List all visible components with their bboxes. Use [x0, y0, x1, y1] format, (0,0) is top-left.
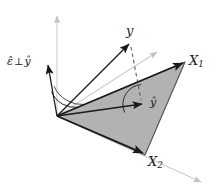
label-x2-base: X	[148, 154, 157, 169]
label-epsilon-perp-yhat: ε̂⊥ŷ	[7, 56, 31, 67]
label-epsilon-perp-target: ŷ	[24, 55, 30, 68]
projection-diagram: y ŷ X1 X2 ε̂⊥ŷ	[0, 0, 218, 196]
vector-epsilon-hat	[48, 65, 57, 116]
label-y-hat: ŷ	[150, 97, 156, 108]
label-y: y	[126, 24, 133, 37]
label-x1: X1	[189, 54, 204, 69]
perpendicular-symbol: ⊥	[13, 56, 25, 67]
diagram-canvas	[0, 0, 218, 196]
label-x1-base: X	[189, 53, 198, 68]
label-x2-subscript: 2	[157, 160, 163, 170]
label-x2: X2	[148, 155, 163, 170]
label-x1-subscript: 1	[198, 59, 204, 69]
